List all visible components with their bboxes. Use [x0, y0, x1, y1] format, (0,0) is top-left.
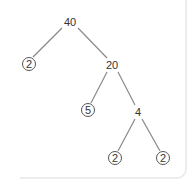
tree-edges: [33, 28, 160, 151]
node-2-left: 2: [26, 58, 32, 70]
node-20: 20: [106, 59, 118, 71]
node-4: 4: [135, 106, 141, 118]
edge-40-20: [78, 28, 107, 58]
node-labels: 40 2 20 5 4 2 2: [26, 16, 166, 164]
factor-tree: 40 2 20 5 4 2 2: [0, 0, 187, 182]
edge-20-4: [118, 72, 135, 105]
node-5: 5: [85, 104, 91, 116]
edge-4-2-left: [118, 119, 135, 151]
node-2-bottom-right: 2: [160, 152, 166, 164]
edge-40-2: [33, 28, 62, 57]
diagram-panel: 40 2 20 5 4 2 2: [0, 0, 187, 182]
edge-4-2-right: [142, 119, 160, 151]
prime-circles: [23, 58, 170, 165]
edge-20-5: [91, 72, 107, 103]
node-2-bottom-left: 2: [112, 152, 118, 164]
node-40: 40: [64, 16, 76, 28]
